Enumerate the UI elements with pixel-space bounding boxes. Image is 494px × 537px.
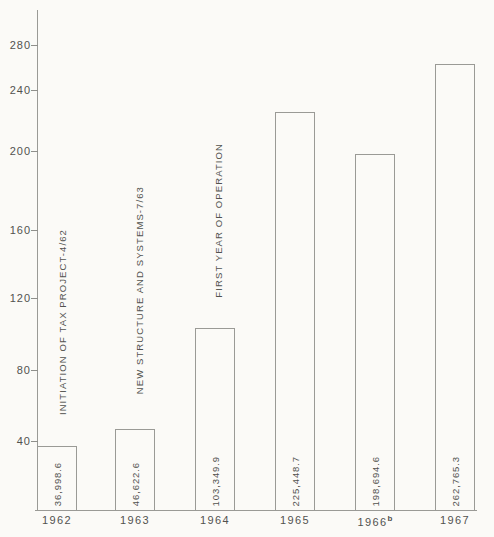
y-tick-label: 240 [0, 83, 31, 97]
y-tick-mark [31, 230, 38, 231]
y-axis-line [37, 10, 38, 510]
y-tick-label: 160 [0, 223, 31, 237]
year-text: 1965 [280, 514, 310, 526]
bar-value-label: 36,998.6 [52, 462, 63, 506]
bar-value-label: 46,622.6 [130, 462, 141, 506]
year-text: 1966 [358, 516, 388, 528]
bar-value-label: 262,765.3 [450, 456, 461, 506]
y-tick-label: 120 [0, 291, 31, 305]
year-text: 1964 [200, 514, 230, 526]
bar [435, 64, 475, 510]
bar-value-label: 103,349.9 [210, 456, 221, 506]
annotation-first-year: FIRST YEAR OF OPERATION [213, 143, 224, 298]
bar-value-label: 198,694.6 [370, 456, 381, 506]
year-text: 1967 [440, 514, 470, 526]
x-axis-label: 1967 [420, 514, 490, 526]
y-tick-mark [31, 298, 38, 299]
y-tick-label: 280 [0, 38, 31, 52]
y-tick-mark [31, 90, 38, 91]
year-text: 1962 [42, 514, 72, 526]
x-axis-line [35, 510, 477, 511]
y-tick-mark [31, 370, 38, 371]
bar-value-label: 225,448.7 [290, 456, 301, 506]
x-axis-label: 1963 [100, 514, 170, 526]
annotation-tax-project: INITIATION OF TAX PROJECT-4/62 [57, 229, 68, 415]
y-tick-label: 40 [0, 434, 31, 448]
x-axis-label: 1966b [340, 514, 410, 528]
x-axis-label: 1964 [180, 514, 250, 526]
year-superscript: b [388, 514, 393, 523]
y-tick-label: 80 [0, 363, 31, 377]
year-text: 1963 [120, 514, 150, 526]
bar [275, 112, 315, 510]
x-axis-label: 1962 [22, 514, 92, 526]
bar-chart: 408012016020024028036,998.6196246,622.61… [0, 0, 494, 537]
annotation-new-structure: NEW STRUCTURE AND SYSTEMS-7/63 [134, 186, 145, 394]
y-tick-mark [31, 441, 38, 442]
x-axis-label: 1965 [260, 514, 330, 526]
y-tick-mark [31, 151, 38, 152]
y-tick-label: 200 [0, 144, 31, 158]
y-tick-mark [31, 45, 38, 46]
